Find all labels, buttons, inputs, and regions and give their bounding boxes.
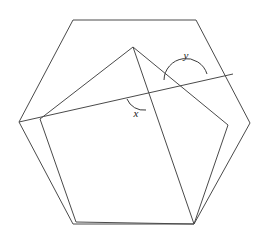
- angle-x-label: x: [133, 107, 139, 119]
- apex-to-bottom-right-segment: [133, 47, 194, 224]
- inner-pentagon: [40, 47, 228, 224]
- geometry-canvas: x y: [0, 0, 268, 243]
- transversal-line: [19, 74, 233, 122]
- angle-y-arc: [164, 59, 207, 80]
- geometry-figure: x y: [0, 0, 268, 243]
- angle-y-label: y: [183, 49, 189, 61]
